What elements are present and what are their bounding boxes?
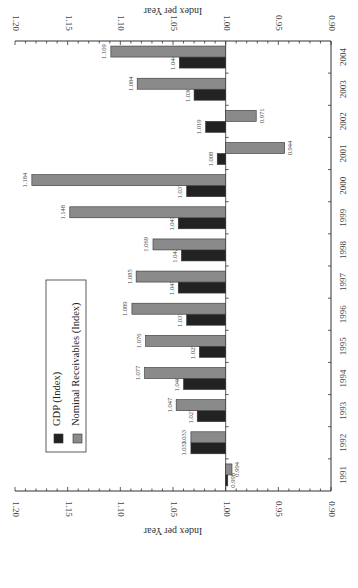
bar-value-label: 0.944 — [286, 140, 293, 155]
value-axis-title-bottom: Index per Year — [143, 526, 202, 537]
tick-label-bottom: 1.00 — [222, 501, 232, 517]
category-label: 1994 — [338, 369, 348, 388]
bar-value-label: 1.069 — [142, 237, 149, 252]
receivables-bar — [145, 368, 226, 379]
gdp-bar — [191, 443, 226, 454]
bar-value-label: 0.971 — [258, 109, 265, 124]
gdp-bar — [178, 218, 225, 229]
receivables-bar — [111, 46, 226, 57]
gdp-bar — [184, 379, 226, 390]
category-label: 2002 — [338, 112, 348, 130]
category-label: 1998 — [338, 240, 348, 259]
bar-value-label: 1.085 — [126, 269, 133, 284]
gdp-bar — [217, 154, 225, 165]
category-label: 1992 — [338, 434, 348, 452]
tick-label-bottom: 0.95 — [274, 501, 284, 517]
tick-label-bottom: 1.20 — [11, 501, 21, 517]
legend-label: Nominal Receivables (Index) — [70, 302, 82, 426]
bar-value-label: 1.040 — [173, 377, 180, 392]
gdp-bar — [178, 282, 225, 293]
receivables-bar — [153, 239, 226, 250]
receivables-bar — [132, 303, 226, 314]
receivables-bar — [226, 110, 257, 121]
legend-swatch-gdp — [54, 434, 63, 443]
receivables-bar — [137, 78, 225, 89]
tick-label-bottom: 0.90 — [327, 501, 337, 517]
receivables-bar — [191, 432, 226, 443]
receivables-bar — [136, 271, 226, 282]
legend-swatch-receivables — [73, 434, 82, 443]
bar-value-label: 1.045 — [168, 216, 175, 231]
bar-value-label: 1.077 — [134, 365, 141, 380]
bar-value-label: 1.089 — [121, 301, 128, 316]
legend-label: GDP (Index) — [51, 371, 63, 426]
receivables-bar — [226, 464, 232, 475]
bar-value-label: 1.148 — [59, 205, 66, 220]
gdp-bar — [179, 57, 225, 68]
bar-value-label: 1.045 — [168, 280, 175, 295]
gdp-bar — [197, 411, 225, 422]
tick-label-bottom: 1.05 — [169, 501, 179, 517]
receivables-bar — [226, 143, 285, 154]
bar-value-label: 1.008 — [207, 152, 214, 167]
receivables-bar — [176, 400, 226, 411]
bar-value-label: 1.033 — [180, 430, 187, 445]
category-label: 2004 — [338, 48, 348, 66]
category-label: 1999 — [338, 208, 348, 227]
receivables-bar — [146, 335, 226, 346]
category-label: 1996 — [338, 305, 348, 324]
bar-value-label: 1.025 — [189, 345, 196, 360]
tick-label-top: 1.20 — [11, 15, 21, 31]
category-label: 1991 — [338, 466, 348, 484]
bar-chart: 1.201.201.151.151.101.101.051.051.001.00… — [0, 0, 358, 588]
value-axis-title-top: Index per Year — [143, 6, 202, 17]
gdp-bar — [199, 346, 225, 357]
tick-label-top: 0.90 — [327, 15, 337, 31]
tick-label-bottom: 1.10 — [116, 501, 126, 517]
gdp-bar — [226, 475, 228, 486]
category-label: 2000 — [338, 176, 348, 195]
category-label: 2001 — [338, 145, 348, 163]
bar-value-label: 1.076 — [135, 333, 142, 348]
tick-label-top: 0.95 — [274, 15, 284, 31]
gdp-bar — [206, 121, 226, 132]
bar-value-label: 1.184 — [21, 172, 28, 187]
category-label: 1997 — [338, 273, 348, 292]
tick-label-top: 1.10 — [116, 15, 126, 31]
bar-value-label: 1.030 — [184, 87, 191, 102]
bar-value-label: 1.047 — [166, 397, 173, 412]
gdp-bar — [181, 250, 225, 261]
category-label: 1995 — [338, 337, 348, 356]
receivables-bar — [70, 207, 226, 218]
chart-svg: 1.201.201.151.151.101.101.051.051.001.00… — [0, 0, 358, 588]
bar-value-label: 1.109 — [100, 44, 107, 59]
receivables-bar — [32, 175, 226, 186]
tick-label-top: 1.00 — [222, 15, 232, 31]
gdp-bar — [194, 89, 226, 100]
bar-value-label: 1.019 — [195, 120, 202, 135]
gdp-bar — [187, 314, 226, 325]
category-label: 1993 — [338, 401, 348, 420]
tick-label-top: 1.15 — [64, 15, 74, 31]
tick-label-bottom: 1.15 — [64, 501, 74, 517]
bar-value-label: 1.042 — [171, 248, 178, 263]
bar-value-label: 1.084 — [127, 76, 134, 91]
category-label: 2003 — [338, 80, 348, 99]
bar-value-label: 0.994 — [233, 461, 240, 476]
gdp-bar — [187, 186, 226, 197]
